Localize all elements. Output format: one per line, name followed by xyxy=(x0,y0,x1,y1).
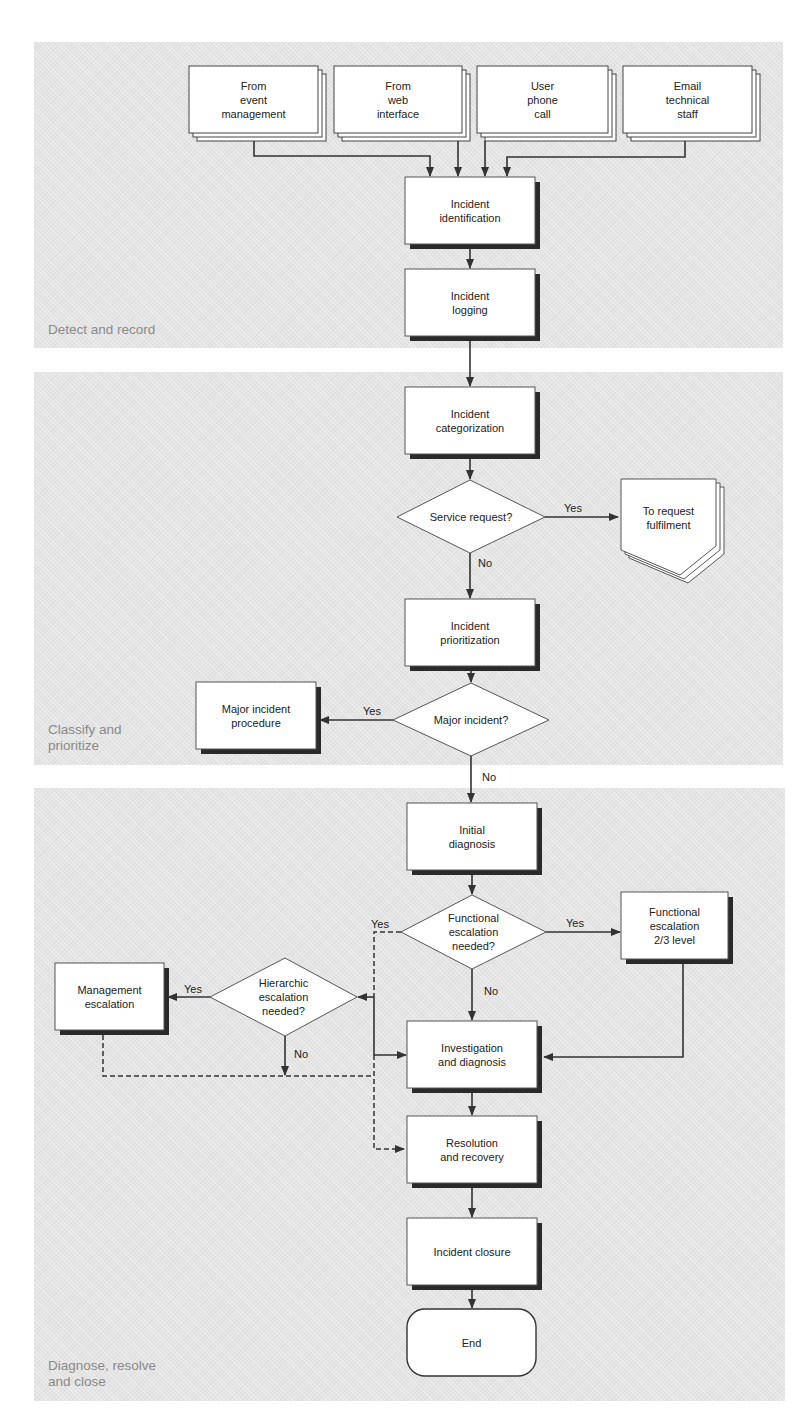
node-functional-escalation-question: Functional escalation needed? xyxy=(401,895,546,969)
edge-label-service-yes: Yes xyxy=(564,502,582,514)
edge-label-functional-no: No xyxy=(484,985,498,997)
node-prioritization: Incident prioritization xyxy=(405,599,535,666)
input-event-label: From event management xyxy=(189,66,318,133)
node-closure: Incident closure xyxy=(407,1218,537,1285)
node-initial-diagnosis: Initial diagnosis xyxy=(407,803,537,870)
input-phone-label: User phone call xyxy=(477,66,608,133)
node-investigation: Investigation and diagnosis xyxy=(407,1021,537,1088)
node-logging: Incident logging xyxy=(405,269,535,336)
node-management-escalation: Management escalation xyxy=(55,963,164,1030)
edge-label-hierarchic-yes: Yes xyxy=(184,983,202,995)
edge-label-major-yes: Yes xyxy=(363,705,381,717)
node-major-incident: Major incident? xyxy=(393,683,549,756)
node-identification: Incident identification xyxy=(405,177,535,244)
edge-label-functional-yes-left: Yes xyxy=(371,918,389,930)
node-categorization: Incident categorization xyxy=(405,387,535,454)
edge-label-hierarchic-no: No xyxy=(294,1048,308,1060)
edge-label-service-no: No xyxy=(478,557,492,569)
node-end: End xyxy=(407,1309,536,1376)
node-request-fulfilment: To request fulfilment xyxy=(621,490,716,545)
node-hierarchic-escalation-question: Hierarchic escalation needed? xyxy=(210,958,357,1036)
node-major-procedure: Major incident procedure xyxy=(196,682,316,749)
edge-label-major-no: No xyxy=(482,771,496,783)
node-resolution: Resolution and recovery xyxy=(407,1116,537,1183)
node-functional-escalation: Functional escalation 2/3 level xyxy=(621,892,728,959)
node-service-request: Service request? xyxy=(397,480,545,553)
input-web-label: From web interface xyxy=(334,66,462,133)
input-email-label: Email technical staff xyxy=(623,66,752,133)
edge-label-functional-yes-right: Yes xyxy=(566,917,584,929)
